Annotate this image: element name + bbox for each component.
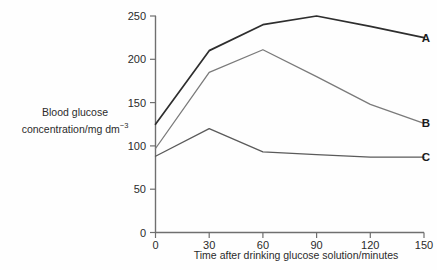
chart-figure: 250 200 150 100 50 0 0 30 60 90 120 150 … bbox=[0, 0, 437, 270]
y-axis-title-exponent: −3 bbox=[120, 121, 129, 130]
series-label-c: C bbox=[422, 151, 430, 163]
series-label-a: A bbox=[422, 32, 430, 44]
y-axis-title: Blood glucose concentration/mg dm−3 bbox=[16, 106, 134, 136]
y-axis-title-line1: Blood glucose bbox=[16, 106, 134, 119]
x-axis-ticks bbox=[156, 233, 425, 239]
y-axis-title-unit: concentration/mg dm bbox=[22, 123, 120, 135]
series-line-b bbox=[156, 50, 425, 149]
series-label-b: B bbox=[422, 117, 430, 129]
y-tick-label-200: 200 bbox=[128, 53, 146, 65]
y-axis-title-line2: concentration/mg dm−3 bbox=[16, 119, 134, 136]
series-line-a bbox=[156, 16, 425, 124]
y-tick-label-50: 50 bbox=[134, 183, 146, 195]
y-tick-label-250: 250 bbox=[128, 10, 146, 22]
series-line-c bbox=[156, 129, 425, 158]
x-axis-title: Time after drinking glucose solution/min… bbox=[155, 249, 437, 261]
y-tick-label-0: 0 bbox=[140, 227, 146, 239]
y-tick-label-100: 100 bbox=[128, 140, 146, 152]
